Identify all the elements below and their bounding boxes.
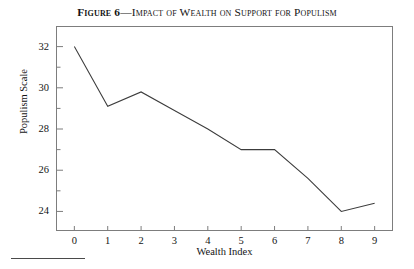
- populism-data-line: [74, 47, 374, 212]
- y-tick-label: 26: [23, 165, 49, 175]
- x-tick-label: 6: [267, 236, 283, 246]
- x-tick-label: 3: [166, 236, 182, 246]
- x-tick-label: 0: [66, 236, 82, 246]
- y-axis-tick-marks: [56, 26, 63, 211]
- x-axis-tick-marks: [74, 226, 374, 231]
- x-tick-label: 9: [367, 236, 383, 246]
- x-axis-title: Wealth Index: [56, 246, 393, 257]
- y-tick-label: 24: [23, 206, 49, 216]
- x-tick-label: 5: [233, 236, 249, 246]
- figure-title-rest: —Impact of Wealth on Support for Populis…: [120, 6, 337, 18]
- x-tick-label: 7: [300, 236, 316, 246]
- figure-title-lead: Figure 6: [77, 6, 120, 18]
- figure-container: Figure 6—Impact of Wealth on Support for…: [0, 0, 414, 269]
- figure-title: Figure 6—Impact of Wealth on Support for…: [0, 6, 414, 18]
- y-axis-title: Populism Scale: [18, 42, 29, 162]
- x-tick-label: 2: [133, 236, 149, 246]
- x-tick-label: 8: [333, 236, 349, 246]
- x-tick-label: 4: [200, 236, 216, 246]
- footnote-rule: [11, 258, 85, 259]
- x-tick-label: 1: [100, 236, 116, 246]
- line-chart-plot: [56, 26, 393, 231]
